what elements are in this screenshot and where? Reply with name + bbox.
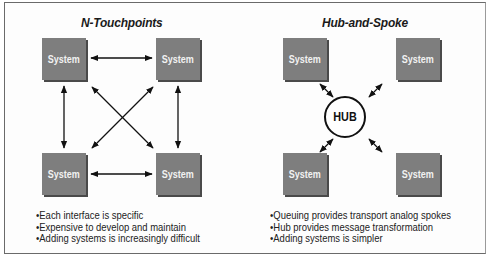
system-box-bottom-right: System <box>396 153 440 195</box>
bullet-item: Adding systems is increasingly difficult <box>36 233 200 245</box>
system-label: System <box>289 169 321 180</box>
system-label: System <box>48 169 80 180</box>
system-label: System <box>402 54 434 65</box>
n-touchpoints-title: N-Touchpoints <box>81 15 163 30</box>
system-label: System <box>162 169 194 180</box>
system-box-top-left: System <box>283 38 327 80</box>
system-box-top-right: System <box>156 38 200 80</box>
system-box-top-right: System <box>396 38 440 80</box>
hub-and-spoke-title: Hub-and-Spoke <box>322 15 408 30</box>
system-label: System <box>162 54 194 65</box>
hub-and-spoke-bullets: Queuing provides transport analog spokes… <box>270 210 471 245</box>
system-box-bottom-right: System <box>156 153 200 195</box>
system-box-bottom-left: System <box>283 153 327 195</box>
system-label: System <box>289 54 321 65</box>
system-label: System <box>402 169 434 180</box>
n-touchpoints-bullets: Each interface is specific Expensive to … <box>36 210 218 245</box>
hub-label: HUB <box>333 110 356 124</box>
hub-circle: HUB <box>324 96 366 138</box>
bullet-item: Adding systems is simpler <box>270 233 451 245</box>
system-box-bottom-left: System <box>42 153 86 195</box>
system-box-top-left: System <box>42 38 86 80</box>
system-label: System <box>48 54 80 65</box>
